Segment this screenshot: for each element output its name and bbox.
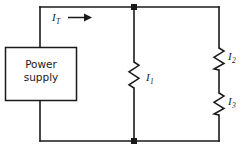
top-junction-dot [131,4,137,10]
power-supply-label-line-2: supply [6,71,76,84]
resistor-I1-symbol [129,62,139,88]
branch-one-current-label: I1 [146,72,153,83]
circuit-diagram: Power supply IT I1 I2 I3 [0,0,243,150]
branch-one-current-subscript: 1 [150,77,154,86]
total-current-label: IT [52,12,60,23]
branch-two-current-subscript: 2 [232,56,236,65]
resistor-I2-symbol [214,48,224,70]
branch-two-current-label: I2 [228,51,235,62]
bottom-junction-dot [131,138,137,144]
branch-three-current-label: I3 [228,96,235,107]
power-supply-label-line-1: Power [6,58,76,71]
arrow-head [84,14,92,22]
branch-three-current-subscript: 3 [232,101,236,110]
resistor-I3-symbol [214,93,224,115]
power-supply-label: Power supply [6,58,76,83]
total-current-subscript: T [56,17,60,26]
